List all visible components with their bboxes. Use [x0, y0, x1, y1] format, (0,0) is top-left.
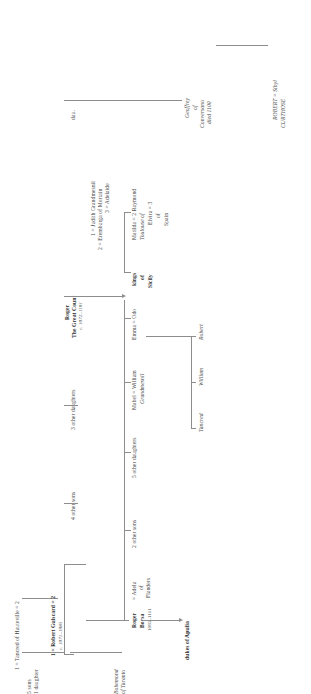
node-mabel: Mabel = William: [131, 370, 137, 410]
node-mabel-grandmesnil: Grandmesnil: [139, 374, 145, 404]
line-emma: [124, 318, 131, 319]
node-geoffrey-conversano: Conversano: [199, 100, 205, 128]
line-four-other-sons: [64, 503, 78, 504]
line-to-kings: [78, 296, 122, 297]
node-bohemond-of-taranto: of Taranto: [120, 670, 126, 694]
line-matilda-bracket: [124, 212, 125, 272]
node-tancred-child: Tancred: [198, 413, 204, 432]
node-geoffrey-of: of: [192, 105, 198, 110]
node-robert-curthose: ROBERT = Sibyl: [272, 80, 278, 120]
node-four-other-sons: 4 other sons: [70, 492, 76, 520]
node-three-other-daughters: 3 other daughters: [70, 389, 76, 430]
node-william-child: William: [198, 368, 204, 386]
line-to-bohemond: [70, 652, 122, 653]
node-roger-great-count: Roger: [64, 305, 70, 320]
line-two-other-sons: [124, 530, 131, 531]
node-roger-dates: c. 1072–1101: [78, 302, 84, 330]
node-five-other-daughters: 5 other daughters: [131, 437, 137, 478]
node-geoffrey-died: died 1100: [206, 101, 212, 124]
node-matilda-of: of: [139, 213, 145, 218]
node-robert-child: Robert: [198, 324, 204, 340]
node-robert-guiscard: 1 = Robert Guiscard = 2: [50, 596, 56, 656]
node-kings-sicily: Sicily: [147, 274, 153, 288]
node-robert-guiscard-dates: c. 1071–1085: [58, 622, 64, 650]
node-elvira-spain: Spain: [163, 213, 169, 226]
node-adela: = Adela: [131, 582, 137, 600]
node-one-daughter: 1 daughter: [33, 669, 39, 694]
node-dau: dau.: [70, 110, 76, 120]
node-roger-wife-3: 3 = Adelaide: [104, 183, 110, 213]
line-bracket-gen2-top: [64, 564, 86, 565]
node-dukes-of-apulia: dukes of Apulia: [184, 621, 190, 660]
node-five-sons: 5 sons: [26, 679, 32, 694]
line-bracket-gen2: [64, 564, 65, 654]
line-roger: [64, 296, 78, 297]
node-roger-borsa: Roger: [131, 613, 137, 628]
node-two-other-sons: 2 other sons: [131, 520, 137, 548]
node-elvira-of: of: [155, 213, 161, 218]
line-gen4-feed: [146, 336, 191, 337]
arrow-kings-of-sicily: [122, 294, 126, 298]
node-roger-borsa-2: Borsa: [139, 614, 145, 628]
node-adela-of: of: [138, 585, 144, 590]
node-kings: kings: [131, 273, 137, 286]
line-geoffrey-to-curthose: [216, 45, 268, 46]
node-roger-title: The Great Count: [71, 296, 77, 338]
line-matilda-bracket-top: [124, 212, 131, 213]
line-mabel: [124, 382, 131, 383]
line-three-other-daughters: [64, 405, 78, 406]
node-elvira: Elvira = 3: [147, 202, 153, 225]
line-bracket-gen2-bottom: [64, 654, 74, 655]
line-tancred-child: [191, 428, 196, 429]
genealogy-chart: 1 = Tancred of Hauteville = 2 5 sons 1 d…: [0, 0, 311, 694]
node-matilda: Matilda = 2 Raymond: [131, 189, 137, 240]
line-five-other-daughters: [124, 452, 131, 453]
node-adela-flanders: Flanders: [145, 578, 151, 598]
line-matilda-bracket-bottom: [124, 272, 131, 273]
line-william-child: [191, 382, 196, 383]
node-matilda-toulouse: Toulouse: [139, 219, 145, 240]
node-roger-wife-2: 2 = Eremburga of Mortain: [97, 189, 103, 250]
node-tancred: 1 = Tancred of Hauteville = 2: [14, 601, 20, 670]
node-emma: Emma = Odo: [131, 309, 137, 340]
node-roger-wife-1: 1 = Judith Grandmesnil: [90, 181, 96, 236]
line-dau-to-geoffrey: [78, 100, 182, 101]
line-roger-borsa: [124, 620, 129, 621]
line-robert-child: [191, 336, 196, 337]
line-to-dukes: [141, 620, 179, 621]
node-geoffrey: Geoffrey: [184, 98, 190, 118]
line-gen3-feed: [86, 620, 124, 621]
line-gen3-spine: [124, 300, 125, 620]
line-tancred-left: [22, 652, 64, 653]
line-dau: [64, 100, 78, 101]
node-kings-of: of: [139, 275, 145, 280]
node-curthose: CURTHOSE: [280, 99, 286, 128]
arrow-dukes-of-apulia: [179, 618, 183, 622]
node-bohemond: Bohemond: [113, 669, 119, 694]
